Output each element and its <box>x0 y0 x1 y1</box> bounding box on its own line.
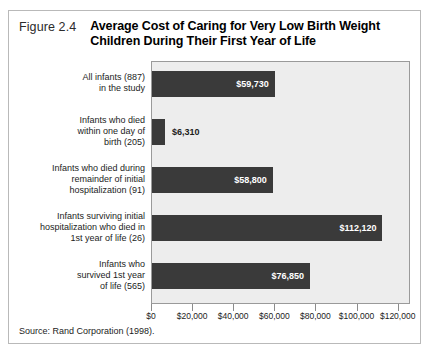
category-label: All infants (887)in the study <box>9 72 145 94</box>
bar-value-label: $59,730 <box>236 71 269 97</box>
source-note: Source: Rand Corporation (1998). <box>19 326 155 336</box>
x-axis-tick-label: $100,000 <box>339 311 374 321</box>
category-label-line: remainder of initial <box>9 174 145 185</box>
x-axis-tick <box>315 304 316 311</box>
x-axis-tick <box>398 304 399 311</box>
x-axis-tick-label: $60,000 <box>259 311 290 321</box>
bar-row: $58,800 <box>152 167 411 193</box>
bar <box>152 119 165 145</box>
bar-row: $59,730 <box>152 71 411 97</box>
x-axis-tick <box>233 304 234 311</box>
category-label-line: of life (565) <box>9 281 145 292</box>
category-label-line: birth (205) <box>9 137 145 148</box>
category-label-line: Infants surviving initial <box>9 211 145 222</box>
figure-title-line-1: Average Cost of Caring for Very Low Birt… <box>90 19 380 34</box>
x-axis-tick <box>192 304 193 311</box>
x-axis-ticks <box>151 304 410 311</box>
bar-chart: All infants (887)in the studyInfants who… <box>9 61 422 323</box>
category-label-line: hospitalization who died in <box>9 222 145 233</box>
plot-area: $59,730$6,310$58,800$112,120$76,850 <box>151 61 410 304</box>
x-axis-tick-label: $120,000 <box>380 311 415 321</box>
category-label-line: within one day of <box>9 126 145 137</box>
category-label-line: Infants who died <box>9 115 145 126</box>
x-axis-tick-label: $20,000 <box>177 311 208 321</box>
figure-number: Figure 2.4 <box>19 19 76 34</box>
category-axis-labels: All infants (887)in the studyInfants who… <box>9 61 151 304</box>
bar-row: $6,310 <box>152 119 411 145</box>
x-axis-tick-label: $0 <box>146 311 155 321</box>
category-label-line: survived 1st year <box>9 270 145 281</box>
category-label-line: Infants who died during <box>9 163 145 174</box>
bar-value-label: $76,850 <box>271 263 304 289</box>
bar-row: $112,120 <box>152 215 411 241</box>
x-axis-tick <box>274 304 275 311</box>
bar-value-label: $112,120 <box>339 215 376 241</box>
category-label-line: Infants who <box>9 259 145 270</box>
category-label: Infants surviving initialhospitalization… <box>9 211 145 244</box>
category-label: Infants who died duringremainder of init… <box>9 163 145 196</box>
category-label: Infants whosurvived 1st yearof life (565… <box>9 259 145 292</box>
category-label: Infants who diedwithin one day ofbirth (… <box>9 115 145 148</box>
x-axis-tick <box>151 304 152 311</box>
figure-title: Average Cost of Caring for Very Low Birt… <box>90 19 380 48</box>
bar-value-label: $58,800 <box>234 167 267 193</box>
figure-header: Figure 2.4 Average Cost of Caring for Ve… <box>9 11 420 61</box>
category-label-line: 1st year of life (26) <box>9 233 145 244</box>
bar-value-label: $6,310 <box>165 119 200 145</box>
category-label-line: in the study <box>9 83 145 94</box>
bar-row: $76,850 <box>152 263 411 289</box>
x-axis-tick-label: $80,000 <box>300 311 331 321</box>
category-label-line: hospitalization (91) <box>9 185 145 196</box>
x-axis-tick-label: $40,000 <box>218 311 249 321</box>
figure-frame: Figure 2.4 Average Cost of Caring for Ve… <box>8 10 421 344</box>
x-axis-tick-labels: $0$20,000$40,000$60,000$80,000$100,000$1… <box>9 311 422 325</box>
x-axis-tick <box>357 304 358 311</box>
category-label-line: All infants (887) <box>9 72 145 83</box>
figure-title-line-2: Children During Their First Year of Life <box>90 34 380 49</box>
